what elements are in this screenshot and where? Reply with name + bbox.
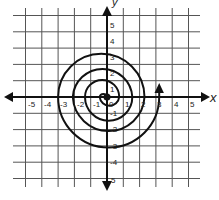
- x-tick-label: -2: [77, 100, 85, 109]
- x-axis-left-arrow-icon: [4, 92, 13, 102]
- y-tick-label: -4: [110, 158, 118, 167]
- y-tick-label: 1: [110, 85, 115, 94]
- x-tick-label: -3: [60, 100, 68, 109]
- x-axis-right-arrow-icon: [201, 92, 210, 102]
- x-tick-label: 5: [190, 100, 195, 109]
- x-tick-label: 4: [174, 100, 179, 109]
- y-axis-label: y: [111, 0, 119, 8]
- y-tick-label: 5: [110, 21, 115, 30]
- y-axis-up-arrow-icon: [102, 6, 112, 16]
- y-tick-label: 4: [110, 37, 115, 46]
- x-tick-label: -4: [44, 100, 52, 109]
- y-tick-label: -1: [110, 109, 118, 118]
- spiral-coordinate-figure: y x -5 -4 -3 -2 -1 0 1 2 3 4 5 5 4 3 2 1…: [0, 0, 219, 200]
- x-tick-label: -5: [28, 100, 36, 109]
- y-tick-label: -3: [110, 142, 118, 151]
- x-tick-label: 3: [157, 100, 162, 109]
- x-tick-label: 0: [109, 100, 114, 109]
- x-axis-label: x: [209, 90, 217, 105]
- x-tick-label: -1: [93, 100, 101, 109]
- y-tick-label: 3: [110, 53, 115, 62]
- x-tick-labels: -5 -4 -3 -2 -1 0 1 2 3 4 5: [28, 100, 195, 109]
- y-tick-label: 2: [110, 69, 115, 78]
- y-tick-label: -2: [110, 125, 118, 134]
- y-tick-label: 5: [111, 176, 116, 185]
- x-tick-label: 1: [125, 100, 130, 109]
- x-tick-label: 2: [141, 100, 146, 109]
